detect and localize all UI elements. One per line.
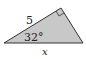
side-label-5: 5 (26, 14, 33, 27)
triangle-diagram: 5 32° x (0, 0, 86, 59)
base-label-x: x (42, 46, 48, 57)
triangle-shape (4, 8, 83, 43)
angle-label: 32° (24, 31, 44, 44)
